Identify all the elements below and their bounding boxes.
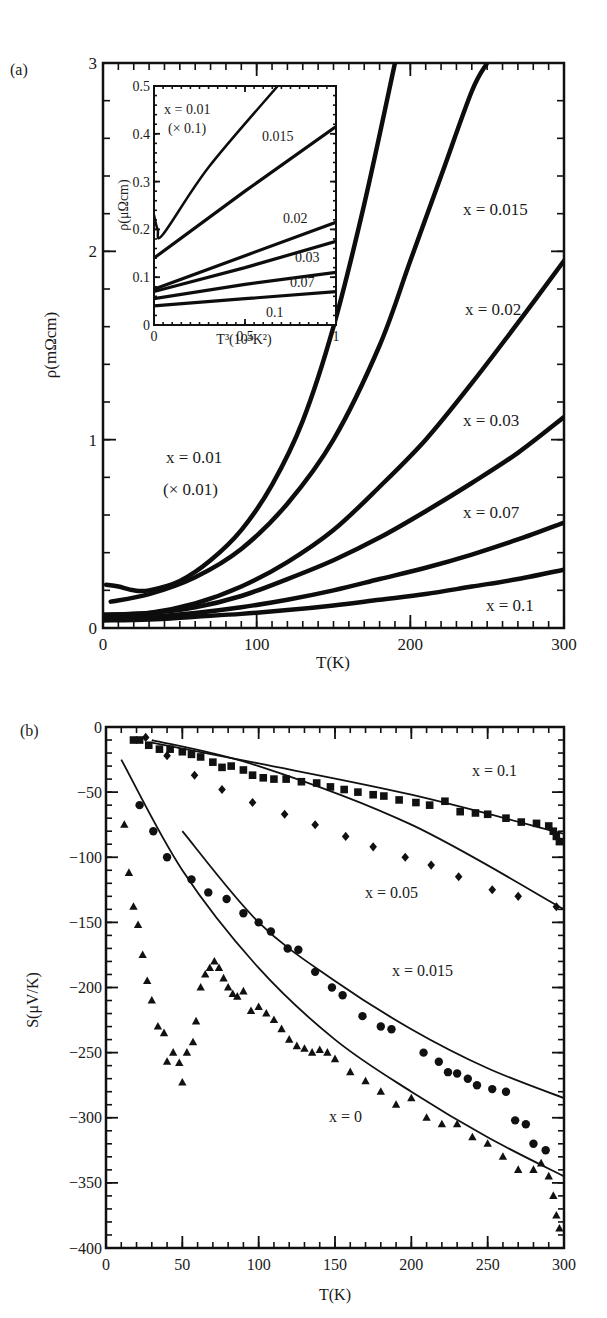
triangle-marker	[529, 1165, 537, 1173]
series-label: x = 0.015	[463, 200, 528, 219]
triangle-marker	[224, 983, 232, 991]
fit-line	[182, 831, 564, 1098]
triangle-marker	[143, 976, 151, 984]
triangle-marker	[323, 1048, 331, 1056]
series-label: x = 0.01	[166, 448, 222, 467]
y-tick-label: 0	[89, 619, 98, 638]
circle-marker	[444, 1068, 452, 1076]
triangle-marker	[183, 1048, 191, 1056]
triangle-marker	[192, 1017, 200, 1025]
x-axis-label: T(K)	[319, 1286, 351, 1304]
x-tick-label: 1	[333, 329, 340, 344]
square-marker	[179, 748, 187, 756]
x-tick-label: 150	[323, 1256, 347, 1273]
series-label: x = 0.07	[463, 503, 520, 522]
triangle-marker	[219, 974, 227, 982]
y-tick-label: 0.3	[133, 175, 151, 190]
triangle-marker	[552, 1211, 560, 1219]
x-tick-label: 100	[244, 635, 270, 654]
series-label: x = 0.1	[472, 762, 517, 779]
square-marker	[259, 774, 267, 782]
triangle-marker	[555, 1224, 563, 1232]
y-axis-label: S(μV/K)	[24, 972, 42, 1028]
triangle-marker	[270, 1016, 278, 1024]
triangle-marker	[254, 1002, 262, 1010]
y-tick-label: −250	[69, 1044, 102, 1061]
y-tick-label: −350	[69, 1174, 102, 1191]
square-marker	[556, 838, 564, 846]
series-label: x = 0.015	[392, 962, 453, 979]
triangle-marker	[125, 868, 133, 876]
panel-label-a: (a)	[10, 61, 28, 79]
square-marker	[395, 796, 403, 804]
square-marker	[249, 771, 257, 779]
x-tick-label: 100	[247, 1256, 271, 1273]
diamond-marker	[249, 798, 257, 807]
triangle-marker	[438, 1120, 446, 1128]
diamond-marker	[342, 832, 350, 841]
square-marker	[145, 741, 153, 749]
series-label: x = 0.03	[463, 411, 519, 430]
x-tick-label: 250	[476, 1256, 500, 1273]
triangle-marker	[210, 957, 218, 965]
y-tick-label: −400	[69, 1240, 102, 1257]
x-tick-label: 0	[102, 1256, 110, 1273]
circle-marker	[283, 944, 291, 952]
y-tick-label: −50	[77, 784, 102, 801]
y-tick-label: 0	[94, 719, 102, 736]
circle-marker	[338, 991, 346, 999]
square-marker	[156, 745, 164, 753]
circle-marker	[204, 888, 212, 896]
square-marker	[456, 808, 464, 816]
y-tick-label: 1	[89, 431, 98, 450]
series-label: (× 0.01)	[163, 480, 218, 499]
circle-marker	[387, 1025, 395, 1033]
panel-b-thermopower-chart: (b)0501001502002503000−50−100−150−200−25…	[20, 719, 576, 1304]
y-tick-label: −150	[69, 914, 102, 931]
circle-marker	[358, 1012, 366, 1020]
triangle-marker	[148, 996, 156, 1004]
y-tick-label: 0	[143, 318, 150, 333]
inset-x-axis-label: T³(10⁴K²)	[216, 332, 272, 348]
circle-marker	[435, 1058, 443, 1066]
diamond-marker	[311, 820, 319, 829]
circle-marker	[135, 801, 143, 809]
square-marker	[240, 766, 248, 774]
x-tick-label: 300	[551, 635, 577, 654]
inset-series-label: (× 0.1)	[168, 121, 207, 137]
y-tick-label: 3	[89, 54, 98, 73]
inset-series-label: 0.03	[295, 250, 320, 265]
inset-y-axis-label: ρ(μΩcm)	[116, 179, 132, 231]
square-marker	[441, 797, 449, 805]
triangle-marker	[499, 1152, 507, 1160]
triangle-marker	[163, 1057, 171, 1065]
square-marker	[412, 799, 420, 807]
square-marker	[209, 758, 217, 766]
diamond-marker	[401, 853, 409, 862]
fit-line	[152, 743, 564, 834]
diamond-marker	[218, 785, 226, 794]
circle-marker	[529, 1140, 537, 1148]
circle-marker	[328, 983, 336, 991]
circle-marker	[254, 918, 262, 926]
diamond-marker	[191, 771, 199, 780]
x-tick-label: 50	[174, 1256, 190, 1273]
circle-marker	[541, 1146, 549, 1154]
triangle-marker	[154, 1022, 162, 1030]
y-tick-label: 2	[89, 242, 98, 261]
panel-label-b: (b)	[20, 722, 39, 740]
triangle-marker	[129, 902, 137, 910]
circle-marker	[222, 895, 230, 903]
triangle-marker	[308, 1048, 316, 1056]
square-marker	[313, 779, 321, 787]
panel-a-resistivity-chart: (a)01002003000123T(K)ρ(mΩcm)x = 0.015x =…	[10, 54, 577, 672]
triangle-marker	[392, 1100, 400, 1108]
diamond-marker	[455, 872, 463, 881]
circle-marker	[377, 1022, 385, 1030]
square-marker	[426, 801, 434, 809]
inset-series-label: 0.07	[290, 275, 315, 290]
y-tick-label: 0.5	[133, 79, 151, 94]
square-marker	[502, 814, 510, 822]
inset-series-label: 0.1	[266, 305, 284, 320]
square-marker	[188, 751, 196, 759]
